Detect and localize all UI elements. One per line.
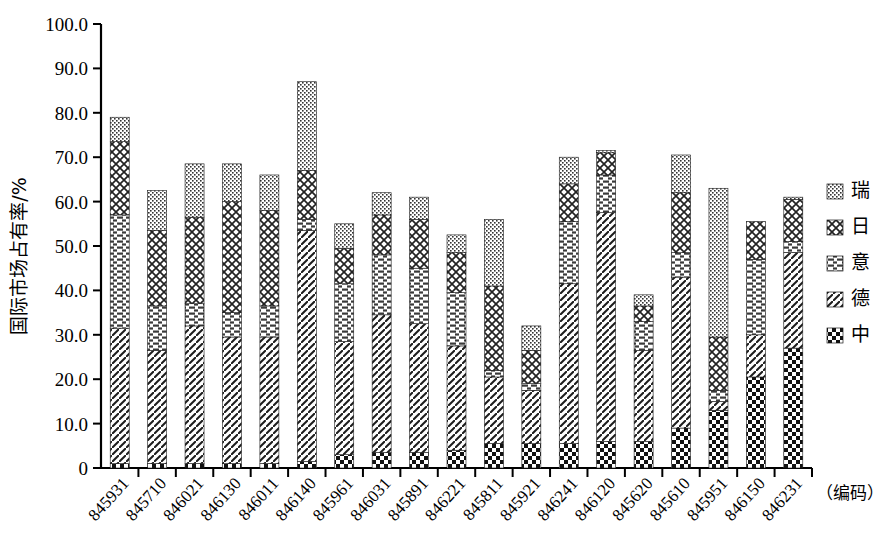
bar-segment-德 (335, 341, 354, 454)
legend-label-瑞: 瑞 (851, 179, 870, 201)
bar-segment-日 (522, 350, 541, 383)
bar-segment-瑞 (297, 82, 316, 171)
bar-845961[interactable] (335, 224, 354, 468)
bar-segment-中 (597, 441, 616, 468)
legend-item-意[interactable]: 意 (827, 251, 870, 273)
bar-845710[interactable] (148, 191, 167, 469)
bar-segment-德 (559, 284, 578, 444)
bar-segment-意 (672, 253, 691, 277)
x-tick-label: 845620 (608, 474, 656, 525)
bar-segment-德 (746, 335, 765, 377)
bar-segment-日 (709, 337, 728, 390)
x-tick-label: 845961 (309, 474, 357, 525)
bar-segment-意 (335, 284, 354, 342)
bar-846021[interactable] (185, 164, 204, 468)
y-tick-label: 90.0 (55, 58, 88, 79)
bar-segment-意 (784, 242, 803, 253)
bar-segment-中 (297, 461, 316, 468)
bar-846241[interactable] (559, 157, 578, 468)
legend-swatch-crosshatch (827, 220, 843, 235)
bar-segment-中 (447, 450, 466, 468)
legend-swatch-dotted (827, 184, 843, 199)
bar-segment-意 (597, 175, 616, 213)
bar-segment-日 (260, 210, 279, 305)
bar-segment-日 (110, 142, 129, 215)
bar-segment-日 (410, 219, 429, 268)
bar-segment-德 (297, 230, 316, 461)
bar-segment-德 (784, 253, 803, 348)
bar-segment-德 (185, 326, 204, 464)
y-tick-label: 40.0 (55, 280, 88, 301)
bar-segment-中 (522, 444, 541, 468)
bar-segment-瑞 (447, 235, 466, 253)
bar-846231[interactable] (784, 197, 803, 468)
bar-segment-中 (746, 377, 765, 468)
bar-segment-瑞 (709, 188, 728, 337)
bar-segment-意 (372, 255, 391, 315)
bar-846011[interactable] (260, 175, 279, 468)
legend-item-德[interactable]: 德 (827, 287, 870, 309)
y-tick-label: 100.0 (45, 14, 88, 35)
bar-846031[interactable] (372, 193, 391, 468)
legend-item-瑞[interactable]: 瑞 (827, 179, 870, 201)
x-tick-label: 845931 (84, 474, 132, 525)
bar-segment-德 (709, 401, 728, 410)
legend-item-日[interactable]: 日 (827, 215, 870, 237)
bar-segment-意 (746, 259, 765, 334)
bar-845931[interactable] (110, 117, 129, 468)
bar-846221[interactable] (447, 235, 466, 468)
bar-segment-日 (672, 193, 691, 253)
bar-segment-意 (522, 384, 541, 391)
bar-845610[interactable] (672, 155, 691, 468)
bar-segment-日 (372, 215, 391, 255)
y-tick-label: 80.0 (55, 103, 88, 124)
chart-container: 010.020.030.040.050.060.070.080.090.0100… (0, 0, 888, 537)
bar-845951[interactable] (709, 188, 728, 468)
x-tick-label: 845921 (496, 474, 544, 525)
bar-segment-德 (484, 377, 503, 444)
bar-846150[interactable] (746, 222, 765, 468)
bar-segment-意 (222, 313, 241, 337)
y-tick-label: 50.0 (55, 236, 88, 257)
bar-846120[interactable] (597, 151, 616, 468)
bar-845921[interactable] (522, 326, 541, 468)
bar-segment-德 (672, 277, 691, 428)
bar-segment-德 (522, 390, 541, 443)
bar-segment-德 (410, 324, 429, 453)
bar-segment-中 (672, 428, 691, 468)
bar-segment-中 (484, 444, 503, 468)
bar-segment-瑞 (634, 295, 653, 306)
bar-845891[interactable] (410, 197, 429, 468)
x-tick-label: 845811 (459, 474, 507, 524)
y-tick-label: 60.0 (55, 192, 88, 213)
bar-845620[interactable] (634, 295, 653, 468)
x-tick-label: 846140 (272, 474, 320, 525)
bar-segment-瑞 (372, 193, 391, 215)
legend-label-日: 日 (851, 215, 870, 237)
bar-846130[interactable] (222, 164, 241, 468)
x-axis-unit-label: （编码） (816, 483, 884, 503)
y-axis: 010.020.030.040.050.060.070.080.090.0100… (45, 14, 101, 479)
bar-segment-瑞 (260, 175, 279, 211)
bar-segment-瑞 (559, 157, 578, 184)
bar-segment-意 (148, 306, 167, 350)
bar-845811[interactable] (484, 219, 503, 468)
bar-segment-日 (447, 253, 466, 293)
y-tick-label: 0 (79, 458, 89, 479)
bar-segment-德 (634, 350, 653, 441)
x-tick-label: 845891 (384, 474, 432, 525)
bar-segment-日 (746, 222, 765, 260)
bar-segment-意 (484, 370, 503, 377)
bar-segment-意 (709, 390, 728, 401)
bar-846140[interactable] (297, 82, 316, 468)
x-tick-label: 845951 (683, 474, 731, 525)
bar-segment-意 (634, 321, 653, 350)
x-tick-label: 846150 (721, 474, 769, 525)
legend-item-中[interactable]: 中 (827, 323, 870, 345)
x-tick-label: 846130 (197, 474, 245, 525)
bar-segment-中 (185, 464, 204, 468)
x-tick-label: 846031 (346, 474, 394, 525)
bar-segment-瑞 (335, 224, 354, 248)
bar-segment-意 (185, 304, 204, 326)
bar-segment-瑞 (484, 219, 503, 286)
